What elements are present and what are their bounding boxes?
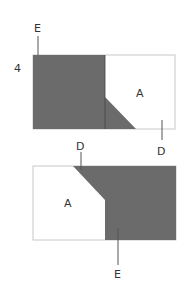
bottom-label-a: A <box>64 197 72 210</box>
top-dark-block <box>33 55 105 129</box>
quilt-block-diagram: 4 E A D D A E <box>0 0 187 293</box>
bottom-label-d: D <box>76 140 84 153</box>
top-label-d: D <box>157 145 165 158</box>
top-label-a: A <box>136 87 144 100</box>
step-number: 4 <box>14 62 21 75</box>
bottom-panel <box>33 152 176 265</box>
top-panel <box>33 36 175 140</box>
top-label-e: E <box>34 22 41 35</box>
bottom-label-e: E <box>114 268 121 281</box>
bottom-dark-block <box>105 166 176 240</box>
